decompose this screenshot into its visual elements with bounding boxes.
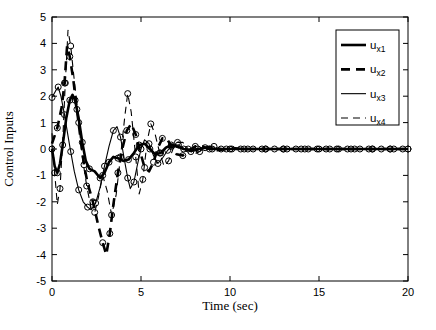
- y-tick-label: 2: [40, 90, 46, 102]
- y-tick-label: 3: [40, 64, 46, 76]
- y-tick-label: 0: [40, 143, 46, 155]
- y-tick-label: -1: [36, 169, 46, 181]
- y-tick-label: 5: [40, 11, 46, 23]
- y-tick-label: -3: [36, 222, 46, 234]
- y-tick-label: -2: [36, 196, 46, 208]
- x-tick-label: 15: [313, 286, 325, 298]
- chart-svg: 05101520-5-4-3-2-1012345 ux1ux2ux3ux4 Ti…: [0, 0, 436, 330]
- x-tick-label: 20: [402, 286, 414, 298]
- x-tick-label: 5: [138, 286, 144, 298]
- x-tick-label: 0: [49, 286, 55, 298]
- x-tick-label: 10: [224, 286, 236, 298]
- figure-canvas: 05101520-5-4-3-2-1012345 ux1ux2ux3ux4 Ti…: [0, 0, 436, 330]
- y-tick-label: 4: [40, 37, 46, 49]
- y-tick-label: -4: [36, 249, 46, 261]
- y-tick-label: -5: [36, 275, 46, 287]
- y-tick-label: 1: [40, 117, 46, 129]
- x-axis-label: Time (sec): [202, 298, 258, 313]
- y-axis-label: Control Inputs: [1, 111, 16, 186]
- legend-group: ux1ux2ux3ux4: [336, 30, 399, 127]
